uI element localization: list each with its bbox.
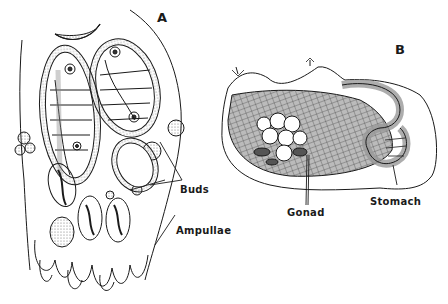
label-buds: Buds: [180, 184, 209, 195]
biological-illustration: A B Buds Ampullae Gonad Stomach: [0, 0, 448, 304]
label-stomach: Stomach: [370, 196, 421, 207]
panel-label-b: B: [395, 42, 405, 57]
label-gonad: Gonad: [287, 207, 325, 218]
label-ampullae: Ampullae: [176, 225, 231, 236]
panel-label-a: A: [157, 10, 167, 25]
